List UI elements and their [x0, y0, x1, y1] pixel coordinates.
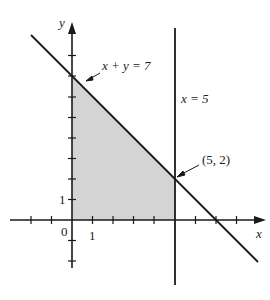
line-label-x-equals-5: x = 5 [181, 92, 209, 105]
label-pointer-arrow-icon [86, 73, 100, 81]
x-unit-label: 1 [89, 229, 96, 242]
graph-canvas [0, 0, 270, 300]
y-axis-label: y [59, 16, 65, 29]
point-pointer-arrow-icon [177, 165, 199, 177]
point-label-5-2: (5, 2) [202, 153, 230, 166]
line-label-x-plus-y-equals-7: x + y = 7 [102, 59, 151, 72]
linear-inequality-graph: y x 0 1 1 x + y = 7 x = 5 (5, 2) [0, 0, 270, 300]
origin-label: 0 [61, 225, 68, 238]
y-unit-label: 1 [59, 193, 66, 206]
shaded-feasible-region [72, 76, 175, 220]
x-axis-arrow-icon [254, 216, 266, 224]
y-axis-arrow-icon [68, 22, 76, 34]
x-axis-label: x [256, 227, 262, 240]
